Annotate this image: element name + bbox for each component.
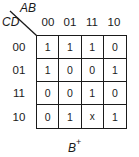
output-function-superscript: +	[76, 137, 81, 147]
cell-cd10-ab00: 0	[37, 105, 59, 128]
cell-cd00-ab01: 1	[59, 36, 81, 59]
cell-cd01-ab00: 1	[37, 59, 59, 82]
cell-cd10-ab01: 1	[59, 105, 81, 128]
column-header-11: 11	[81, 16, 103, 28]
cell-cd00-ab10: 0	[104, 36, 126, 59]
column-variables-label: AB	[20, 2, 36, 14]
output-function-label: B+	[68, 137, 81, 155]
row-header-11: 11	[8, 87, 30, 99]
row-variables-label: CD	[2, 16, 19, 28]
column-header-01: 01	[59, 16, 81, 28]
cell-cd01-ab11: 0	[82, 59, 104, 82]
cell-cd11-ab11: 1	[82, 82, 104, 105]
row-header-10: 10	[8, 111, 30, 123]
cell-cd00-ab00: 1	[37, 36, 59, 59]
cell-cd10-ab11-dont-care: x	[82, 105, 104, 128]
column-header-00: 00	[37, 16, 59, 28]
cell-cd01-ab10: 1	[104, 59, 126, 82]
cell-cd11-ab10: 0	[104, 82, 126, 105]
cell-cd11-ab00: 0	[37, 82, 59, 105]
row-header-01: 01	[8, 64, 30, 76]
cell-cd11-ab01: 0	[59, 82, 81, 105]
karnaugh-map: AB CD 00 01 11 10 00 01 11 10 1 1 1 0 1 …	[0, 0, 139, 157]
cell-cd10-ab10: 1	[104, 105, 126, 128]
cell-cd00-ab11: 1	[82, 36, 104, 59]
output-function-name: B	[68, 141, 76, 155]
column-header-10: 10	[103, 16, 125, 28]
row-header-00: 00	[8, 41, 30, 53]
cell-cd01-ab01: 0	[59, 59, 81, 82]
kmap-grid: 1 1 1 0 1 0 0 1 0 0 1 0 0 1 x 1	[36, 35, 127, 129]
